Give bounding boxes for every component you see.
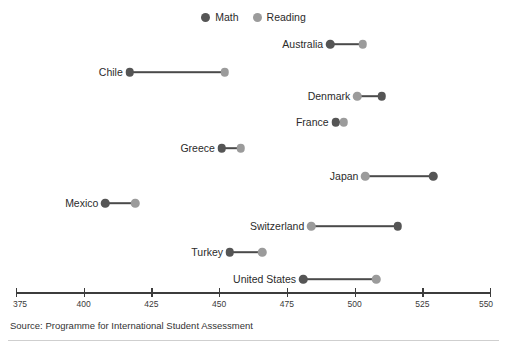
x-axis-line [16, 292, 490, 294]
x-axis-tick [355, 288, 356, 297]
chart-row[interactable]: United States [0, 271, 507, 287]
data-point-reading[interactable] [358, 40, 367, 49]
x-axis-tick-label: 550 [479, 299, 493, 309]
row-label-france: France [296, 116, 329, 128]
chart-row[interactable]: Denmark [0, 88, 507, 104]
row-label-united-states: United States [233, 273, 296, 285]
row-connector [311, 225, 398, 227]
data-point-reading[interactable] [237, 144, 246, 153]
data-point-reading[interactable] [307, 222, 316, 231]
data-point-reading[interactable] [131, 199, 140, 208]
x-axis-tick [16, 288, 17, 297]
chart-row[interactable]: France [0, 114, 507, 130]
data-point-reading[interactable] [361, 172, 370, 181]
x-axis-tick-label: 400 [77, 299, 91, 309]
data-point-math[interactable] [299, 275, 308, 284]
data-point-math[interactable] [126, 68, 135, 77]
data-point-reading[interactable] [353, 92, 362, 101]
row-label-chile: Chile [99, 66, 123, 78]
x-axis-tick-label: 525 [415, 299, 429, 309]
x-axis-tick [287, 288, 288, 297]
row-connector [130, 71, 225, 73]
data-point-math[interactable] [101, 199, 110, 208]
data-point-reading[interactable] [258, 248, 267, 257]
chart-row[interactable]: Chile [0, 64, 507, 80]
data-point-math[interactable] [218, 144, 227, 153]
source-note: Source: Programme for International Stud… [10, 320, 253, 331]
x-axis-tick-label: 475 [280, 299, 294, 309]
row-connector [365, 175, 433, 177]
dumbbell-chart: MathReading AustraliaChileDenmarkFranceG… [0, 0, 507, 347]
data-point-reading[interactable] [220, 68, 229, 77]
chart-row[interactable]: Greece [0, 140, 507, 156]
x-axis-tick [219, 288, 220, 297]
data-point-math[interactable] [377, 92, 386, 101]
x-axis-tick-label: 375 [13, 299, 27, 309]
row-label-mexico: Mexico [65, 197, 98, 209]
x-axis-tick [84, 288, 85, 297]
x-axis-tick [151, 288, 152, 297]
data-point-math[interactable] [394, 222, 403, 231]
row-connector [303, 278, 376, 280]
bottom-divider [8, 340, 499, 341]
row-label-turkey: Turkey [191, 246, 223, 258]
x-axis: 375400425450475500525550 [0, 288, 507, 314]
x-axis-tick [490, 288, 491, 297]
data-point-math[interactable] [226, 248, 235, 257]
row-label-greece: Greece [180, 142, 214, 154]
x-axis-tick [422, 288, 423, 297]
chart-row[interactable]: Switzerland [0, 218, 507, 234]
data-point-math[interactable] [429, 172, 438, 181]
x-axis-tick-label: 425 [144, 299, 158, 309]
data-point-reading[interactable] [339, 118, 348, 127]
x-axis-tick-label: 450 [212, 299, 226, 309]
row-label-switzerland: Switzerland [250, 220, 304, 232]
row-label-denmark: Denmark [308, 90, 351, 102]
chart-row[interactable]: Japan [0, 168, 507, 184]
data-point-reading[interactable] [372, 275, 381, 284]
data-point-math[interactable] [326, 40, 335, 49]
row-label-japan: Japan [330, 170, 359, 182]
x-axis-tick-label: 500 [347, 299, 361, 309]
chart-row[interactable]: Australia [0, 36, 507, 52]
plot-area: AustraliaChileDenmarkFranceGreeceJapanMe… [0, 0, 507, 300]
row-label-australia: Australia [282, 38, 323, 50]
chart-row[interactable]: Mexico [0, 195, 507, 211]
chart-row[interactable]: Turkey [0, 244, 507, 260]
